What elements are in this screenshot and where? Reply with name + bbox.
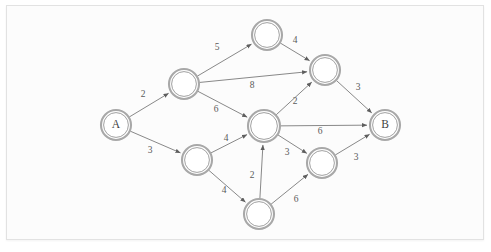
graph-edge-n4-to-B — [280, 125, 367, 126]
graph-edge-n5-to-n6 — [209, 170, 246, 202]
edge-weight-n7-to-B: 3 — [354, 152, 359, 162]
node-ring-inner — [251, 113, 278, 140]
graph-node-n2[interactable] — [252, 20, 282, 50]
edge-weight-n4-to-n7: 3 — [285, 147, 290, 157]
graph-node-n1[interactable] — [169, 69, 199, 99]
graph-node-n3[interactable] — [310, 55, 340, 85]
graph-node-n4[interactable] — [248, 110, 280, 142]
graph-edge-n1-to-n4 — [198, 91, 247, 117]
graph-node-n5[interactable] — [182, 145, 212, 175]
edge-weight-A-to-n1: 2 — [141, 89, 146, 99]
graph-edge-n1-to-n2 — [197, 44, 251, 76]
graph-node-n7[interactable] — [307, 148, 337, 178]
graph-edge-A-to-n1 — [129, 93, 168, 117]
network-graph: 235864326344263 AB — [0, 0, 491, 252]
graph-edge-n6-to-n7 — [271, 174, 308, 204]
graph-edge-n7-to-B — [335, 134, 369, 155]
edge-weight-n3-to-B: 3 — [356, 82, 361, 92]
node-ring-inner — [310, 151, 335, 176]
edge-weight-n2-to-n3: 4 — [293, 35, 298, 45]
node-ring-inner — [172, 72, 197, 97]
edge-weight-n5-to-n6: 4 — [222, 185, 227, 195]
edge-weight-n5-to-n4: 4 — [224, 133, 229, 143]
graph-node-A[interactable]: A — [101, 110, 131, 140]
graph-edge-n4-to-n7 — [278, 135, 307, 153]
node-label-A: A — [112, 118, 121, 130]
node-layer: AB — [101, 20, 400, 229]
edge-weight-n4-to-n3: 2 — [293, 96, 298, 106]
graph-edge-n3-to-B — [336, 80, 371, 112]
node-ring-inner — [313, 58, 338, 83]
graph-edge-n2-to-n3 — [280, 43, 309, 61]
node-ring-inner — [185, 148, 210, 173]
edge-weight-n1-to-n3: 8 — [250, 80, 255, 90]
node-ring-inner — [255, 23, 280, 48]
graph-node-n6[interactable] — [244, 199, 274, 229]
figure-root: 235864326344263 AB — [0, 0, 491, 252]
edge-weight-n6-to-n7: 6 — [294, 194, 299, 204]
graph-edge-n6-to-n4 — [260, 145, 263, 199]
edge-weight-n1-to-n4: 6 — [214, 104, 219, 114]
graph-node-B[interactable]: B — [370, 110, 400, 140]
graph-edge-n5-to-n4 — [211, 135, 247, 153]
node-label-B: B — [381, 118, 389, 130]
edge-weight-A-to-n5: 3 — [148, 145, 153, 155]
edge-weight-n4-to-B: 6 — [318, 126, 323, 136]
graph-edge-A-to-n5 — [130, 131, 180, 153]
edge-weight-n6-to-n4: 2 — [250, 170, 255, 180]
node-ring-inner — [247, 202, 272, 227]
edge-weight-n1-to-n2: 5 — [215, 42, 220, 52]
